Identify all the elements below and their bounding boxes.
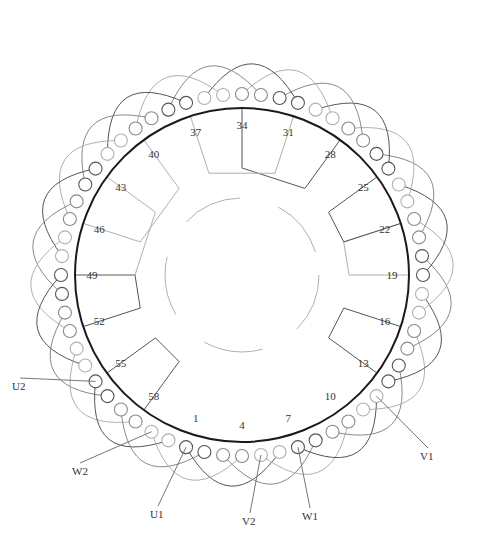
slot-label-49: 49 — [87, 269, 99, 281]
slot-label-37: 37 — [190, 126, 202, 138]
slot-terminal-39 — [145, 112, 158, 125]
lead-W2 — [80, 432, 152, 463]
slot-terminal-32 — [273, 91, 286, 104]
slot-terminal-37 — [180, 96, 193, 109]
lead-U1 — [158, 447, 186, 506]
slot-terminal-6 — [273, 446, 286, 459]
slot-terminal-51 — [58, 306, 71, 319]
slot-terminal-9 — [326, 425, 339, 438]
slot-terminal-31 — [291, 96, 304, 109]
slot-terminal-54 — [79, 359, 92, 372]
slot-label-43: 43 — [115, 181, 127, 193]
slot-terminal-11 — [357, 403, 370, 416]
slot-terminal-47 — [58, 231, 71, 244]
slot-terminal-58 — [129, 415, 142, 428]
slot-label-46: 46 — [94, 223, 106, 235]
slot-terminal-34 — [236, 88, 249, 101]
slot-terminal-33 — [254, 88, 267, 101]
slot-terminal-43 — [89, 162, 102, 175]
terminal-label-V2: V2 — [242, 515, 255, 527]
slot-terminal-21 — [413, 231, 426, 244]
slot-terminal-38 — [162, 103, 175, 116]
inner-ring — [165, 198, 319, 352]
slot-terminal-26 — [370, 147, 383, 160]
terminal-label-V1: V1 — [420, 450, 433, 462]
slot-terminal-30 — [309, 103, 322, 116]
slot-label-22: 22 — [379, 223, 390, 235]
slot-terminal-35 — [217, 88, 230, 101]
slot-terminal-57 — [114, 403, 127, 416]
slot-label-19: 19 — [387, 269, 399, 281]
slot-terminal-13 — [382, 375, 395, 388]
slot-terminal-45 — [70, 195, 83, 208]
slot-terminal-22 — [408, 213, 421, 226]
lead-W1 — [298, 447, 310, 508]
slot-label-16: 16 — [379, 315, 391, 327]
winding-diagram-canvas: 1471013161922252831343740434649525558 U1… — [0, 0, 492, 539]
slot-terminal-48 — [55, 250, 68, 263]
slot-terminal-16 — [408, 324, 421, 337]
slot-terminal-60 — [162, 434, 175, 447]
slot-label-28: 28 — [325, 148, 337, 160]
slot-label-52: 52 — [94, 315, 105, 327]
slot-label-31: 31 — [283, 126, 294, 138]
slot-label-40: 40 — [148, 148, 160, 160]
slot-label-55: 55 — [115, 357, 127, 369]
slot-terminal-14 — [392, 359, 405, 372]
terminal-label-U1: U1 — [150, 508, 163, 520]
slot-terminal-10 — [342, 415, 355, 428]
slot-terminal-49 — [55, 269, 68, 282]
slot-terminal-56 — [101, 390, 114, 403]
slot-terminal-18 — [416, 287, 429, 300]
terminal-label-U2: U2 — [12, 380, 25, 392]
lead-V2 — [250, 455, 261, 513]
slot-terminal-19 — [417, 269, 430, 282]
slot-label-34: 34 — [237, 119, 249, 131]
slot-label-7: 7 — [286, 412, 292, 424]
slot-label-1: 1 — [193, 412, 199, 424]
slot-terminal-53 — [70, 342, 83, 355]
slot-terminal-4 — [236, 450, 249, 463]
slot-terminal-8 — [309, 434, 322, 447]
slot-terminal-3 — [217, 449, 230, 462]
slot-label-4: 4 — [239, 419, 245, 431]
slot-terminal-25 — [382, 162, 395, 175]
slot-terminal-20 — [416, 250, 429, 263]
slot-label-58: 58 — [148, 390, 160, 402]
lead-U2 — [20, 378, 96, 381]
slot-terminal-44 — [79, 178, 92, 191]
slot-terminal-46 — [63, 213, 76, 226]
slot-label-10: 10 — [325, 390, 337, 402]
slot-terminal-2 — [198, 446, 211, 459]
slot-terminal-50 — [55, 287, 68, 300]
slot-terminal-52 — [63, 324, 76, 337]
slot-label-13: 13 — [358, 357, 370, 369]
slot-terminal-24 — [392, 178, 405, 191]
slot-terminal-42 — [101, 147, 114, 160]
slot-terminal-23 — [401, 195, 414, 208]
terminal-label-W2: W2 — [72, 465, 88, 477]
slot-terminal-41 — [114, 134, 127, 147]
terminal-label-W1: W1 — [302, 510, 318, 522]
winding-diagram: 1471013161922252831343740434649525558 U1… — [0, 0, 492, 539]
inner-connection — [107, 338, 179, 410]
slot-terminal-15 — [401, 342, 414, 355]
slot-terminal-29 — [326, 112, 339, 125]
slot-label-25: 25 — [358, 181, 370, 193]
slot-terminal-36 — [198, 91, 211, 104]
slot-terminal-40 — [129, 122, 142, 135]
inner-connection — [75, 275, 140, 327]
slot-terminal-17 — [413, 306, 426, 319]
slot-terminal-27 — [357, 134, 370, 147]
slot-terminal-28 — [342, 122, 355, 135]
